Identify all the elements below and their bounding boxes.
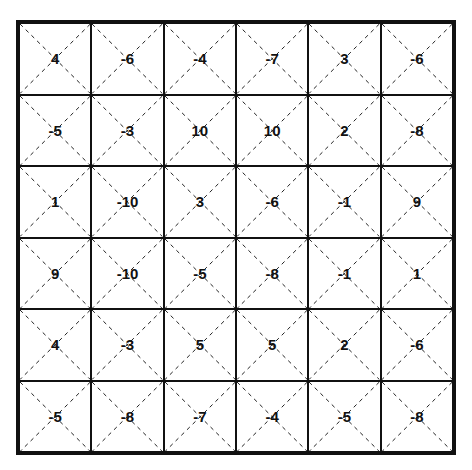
grid-cell: -7 bbox=[236, 23, 308, 95]
grid-cell: 9 bbox=[19, 238, 91, 310]
grid-cell: 1 bbox=[381, 238, 453, 310]
grid-cell: -3 bbox=[91, 309, 163, 381]
cell-value: -8 bbox=[121, 408, 134, 425]
grid-cell: -8 bbox=[381, 95, 453, 167]
grid-cell: 4 bbox=[19, 23, 91, 95]
number-grid: 4-6-4-73-6-5-310102-81-103-6-199-10-5-8-… bbox=[16, 20, 456, 455]
grid-cell: 3 bbox=[164, 166, 236, 238]
cell-value: 1 bbox=[413, 265, 421, 282]
cell-value: 10 bbox=[191, 122, 208, 139]
cell-value: 2 bbox=[340, 122, 348, 139]
cell-value: 5 bbox=[196, 336, 204, 353]
grid-cell: -3 bbox=[91, 95, 163, 167]
cell-value: -10 bbox=[117, 193, 139, 210]
cell-value: -3 bbox=[121, 336, 134, 353]
cell-value: 4 bbox=[51, 50, 59, 67]
grid-cell: 2 bbox=[308, 95, 380, 167]
grid-cell: -8 bbox=[236, 238, 308, 310]
grid-cell: -10 bbox=[91, 166, 163, 238]
cell-value: -1 bbox=[338, 265, 351, 282]
grid-cell: -6 bbox=[91, 23, 163, 95]
grid-cell: -5 bbox=[19, 95, 91, 167]
cell-value: 10 bbox=[264, 122, 281, 139]
grid-cell: -1 bbox=[308, 238, 380, 310]
grid-cell: -7 bbox=[164, 381, 236, 453]
cell-value: -3 bbox=[121, 122, 134, 139]
grid-cell: -5 bbox=[164, 238, 236, 310]
grid-cell: -8 bbox=[91, 381, 163, 453]
cell-value: -1 bbox=[338, 193, 351, 210]
grid-cell: 1 bbox=[19, 166, 91, 238]
grid-cell: -4 bbox=[164, 23, 236, 95]
cell-value: 3 bbox=[340, 50, 348, 67]
cell-value: -8 bbox=[410, 122, 423, 139]
cell-value: 1 bbox=[51, 193, 59, 210]
cell-value: -7 bbox=[265, 50, 278, 67]
grid-cell: 3 bbox=[308, 23, 380, 95]
grid-cell: -10 bbox=[91, 238, 163, 310]
grid-cell: -6 bbox=[381, 309, 453, 381]
grid-cell: 10 bbox=[236, 95, 308, 167]
grid-cell: 2 bbox=[308, 309, 380, 381]
grid-cell: 9 bbox=[381, 166, 453, 238]
cell-value: -6 bbox=[410, 336, 423, 353]
cell-value: -8 bbox=[410, 408, 423, 425]
cell-value: -5 bbox=[48, 122, 61, 139]
cell-value: 2 bbox=[340, 336, 348, 353]
cell-value: 5 bbox=[268, 336, 276, 353]
grid-cell: 4 bbox=[19, 309, 91, 381]
grid-cell: -6 bbox=[381, 23, 453, 95]
cell-value: 4 bbox=[51, 336, 59, 353]
grid-cell: -8 bbox=[381, 381, 453, 453]
cell-value: -4 bbox=[193, 50, 206, 67]
cell-value: -6 bbox=[265, 193, 278, 210]
cell-value: -6 bbox=[121, 50, 134, 67]
grid-cell: -5 bbox=[19, 381, 91, 453]
cell-value: -4 bbox=[265, 408, 278, 425]
grid-cell: -4 bbox=[236, 381, 308, 453]
cell-value: -10 bbox=[117, 265, 139, 282]
cell-value: -6 bbox=[410, 50, 423, 67]
grid-cell: 5 bbox=[236, 309, 308, 381]
cell-value: -7 bbox=[193, 408, 206, 425]
cell-value: -5 bbox=[193, 265, 206, 282]
cell-value: -5 bbox=[338, 408, 351, 425]
cell-value: -5 bbox=[48, 408, 61, 425]
grid-cell: -6 bbox=[236, 166, 308, 238]
grid-cell: 5 bbox=[164, 309, 236, 381]
grid-cell: 10 bbox=[164, 95, 236, 167]
cell-value: -8 bbox=[265, 265, 278, 282]
cell-value: 3 bbox=[196, 193, 204, 210]
cell-value: 9 bbox=[413, 193, 421, 210]
cell-value: 9 bbox=[51, 265, 59, 282]
grid-cell: -5 bbox=[308, 381, 380, 453]
grid-cell: -1 bbox=[308, 166, 380, 238]
